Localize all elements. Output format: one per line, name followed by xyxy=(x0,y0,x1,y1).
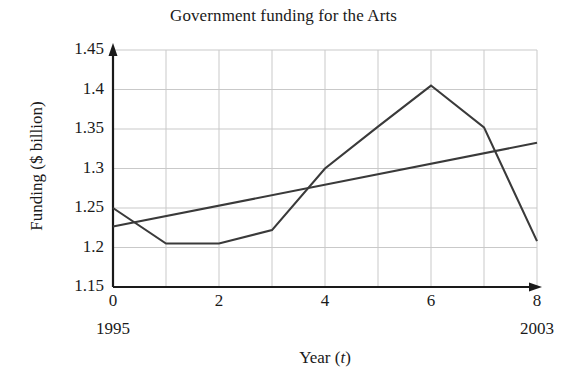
start-year-annotation: 1995 xyxy=(83,319,143,339)
y-tick-label: 1.2 xyxy=(83,237,104,257)
x-axis-label: Year (t) xyxy=(113,348,537,368)
chart-figure: Government funding for the Arts Funding … xyxy=(0,0,567,389)
x-axis-label-suffix: ) xyxy=(345,348,351,367)
x-axis-label-prefix: Year ( xyxy=(299,348,340,367)
y-tick-label: 1.35 xyxy=(74,118,104,138)
end-year-annotation: 2003 xyxy=(507,319,567,339)
x-tick-label: 8 xyxy=(517,291,557,311)
y-tick-label: 1.25 xyxy=(74,197,104,217)
x-tick-label: 0 xyxy=(93,291,133,311)
x-tick-label: 2 xyxy=(199,291,239,311)
x-tick-label: 4 xyxy=(305,291,345,311)
x-tick-label: 6 xyxy=(411,291,451,311)
y-tick-label: 1.4 xyxy=(83,79,104,99)
y-tick-label: 1.45 xyxy=(74,39,104,59)
y-tick-label: 1.3 xyxy=(83,158,104,178)
